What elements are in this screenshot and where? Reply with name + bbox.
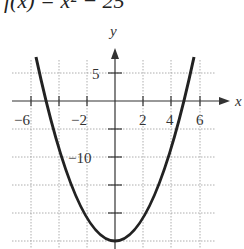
- x-tick-label: 6: [196, 112, 204, 128]
- y-tick-label: 5: [92, 66, 100, 82]
- x-tick-label: 2: [139, 112, 147, 128]
- y-axis-label: y: [108, 23, 117, 39]
- x-axis-arrow-icon: [219, 97, 230, 105]
- x-tick-label: −2: [71, 112, 87, 128]
- plot-area: x y −6 −2 2 4 6 5 −10: [0, 0, 244, 249]
- x-axis-label: x: [234, 93, 242, 109]
- x-tick-label: −6: [14, 112, 30, 128]
- y-tick-label: −10: [68, 150, 91, 166]
- x-tick-label: 4: [166, 112, 174, 128]
- y-axis-arrow-icon: [111, 48, 119, 59]
